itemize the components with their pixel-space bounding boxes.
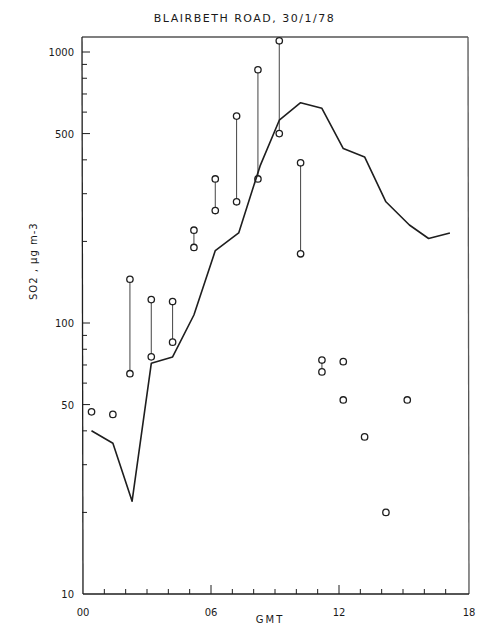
range-high-point	[191, 227, 197, 233]
frame-right	[468, 37, 469, 594]
range-high-point	[319, 357, 325, 363]
data-point	[361, 434, 367, 440]
x-tick-label: 06	[205, 607, 218, 618]
range-high-point	[212, 176, 218, 182]
range-high-point	[255, 67, 261, 73]
data-point	[88, 409, 94, 415]
range-low-point	[148, 354, 154, 360]
data-point	[404, 397, 410, 403]
x-axis: 00061218	[77, 585, 476, 618]
x-tick-label: 00	[77, 607, 90, 618]
range-low-point	[233, 199, 239, 205]
y-axis: 10501005001000	[49, 47, 90, 600]
range-high-point	[169, 298, 175, 304]
data-point	[340, 397, 346, 403]
range-high-point	[127, 276, 133, 282]
data-point	[340, 358, 346, 364]
data-points	[88, 358, 410, 515]
y-tick-label: 50	[61, 400, 74, 411]
series-line	[92, 103, 450, 502]
chart-canvas: 10501005001000 00061218	[0, 0, 489, 639]
x-tick-label: 18	[463, 607, 476, 618]
y-tick-label: 100	[55, 318, 74, 329]
x-tick-label: 12	[333, 607, 346, 618]
range-high-point	[233, 113, 239, 119]
range-high-point	[297, 160, 303, 166]
data-point	[110, 411, 116, 417]
range-low-point	[212, 207, 218, 213]
plot-frame	[82, 37, 469, 594]
range-bars	[127, 38, 325, 377]
data-point	[383, 509, 389, 515]
range-low-point	[191, 244, 197, 250]
range-high-point	[276, 38, 282, 44]
range-low-point	[169, 339, 175, 345]
range-low-point	[276, 130, 282, 136]
frame-left	[82, 37, 83, 594]
y-tick-label: 10	[61, 589, 74, 600]
y-tick-label: 500	[55, 129, 74, 140]
range-high-point	[148, 296, 154, 302]
data-line	[92, 103, 450, 502]
range-low-point	[127, 371, 133, 377]
range-low-point	[297, 251, 303, 257]
y-tick-label: 1000	[49, 47, 74, 58]
range-low-point	[319, 369, 325, 375]
